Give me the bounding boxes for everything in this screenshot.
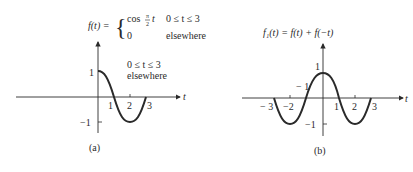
figure-canvas: 1 −1 1 2 3 t f(t) = { cos π 2 t 0 ≤ t ≤ … [0,0,413,172]
xtick-m2-b: −2 [283,101,294,112]
case1-frac-num: π [146,13,149,19]
plot-b: f₁(t) = f(t) + f(−t) 1 − 1 −1 − 3 −2 1 2… [242,27,408,157]
definition-lhs: f(t) = [88,20,109,32]
plot-a: 1 −1 1 2 3 t f(t) = { cos π 2 t 0 ≤ t ≤ … [16,13,207,154]
case1-cos: cos [127,13,140,24]
xtick-3-b: 3 [372,101,377,112]
xtick-m3-b: − 3 [260,101,273,112]
xtick-2-a: 2 [127,100,132,111]
title-b: f₁(t) = f(t) + f(−t) [263,27,334,39]
case1-t: t [152,13,155,24]
case1-frac-den: 2 [146,21,149,27]
case1-cond: 0 ≤ t ≤ 3 [166,13,200,24]
f1-curve [274,73,371,124]
xtick-2-b: 2 [352,101,357,112]
ytick-m1-b: −1 [305,119,316,130]
axis-label-t-a: t [183,91,186,102]
xtick-1-a: 1 [108,100,113,111]
xtick-1-b: 1 [334,101,339,112]
caption-b: (b) [314,145,326,157]
ytick-m1-a: −1 [80,117,91,128]
brace-icon: { [115,14,127,40]
ytick-1-b: 1 [315,61,320,72]
caption-a: (a) [89,142,100,154]
axis-label-t-b: t [405,93,408,104]
annotation-line1: 0 ≤ t ≤ 3 [127,59,161,70]
case2-cond: elsewhere [166,30,207,41]
neg-label-b: − 1 [296,81,309,92]
xtick-3-a: 3 [147,100,152,111]
annotation-line2: elsewhere [127,70,168,81]
case2-expr: 0 [127,30,132,41]
ytick-1-a: 1 [89,67,94,78]
